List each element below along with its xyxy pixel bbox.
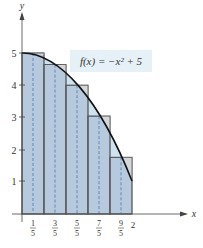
y-axis-label: y <box>19 0 25 11</box>
x-tick-2: 2 <box>131 220 136 230</box>
x-tick-1-5-den: 5 <box>31 229 35 238</box>
y-tick-4: 4 <box>12 80 17 91</box>
y-tick-2: 2 <box>12 145 17 156</box>
midpoint-rectangles <box>22 53 132 214</box>
y-tick-3: 3 <box>12 112 17 123</box>
y-tick-1: 1 <box>12 176 17 187</box>
y-tick-5: 5 <box>12 48 17 59</box>
x-tick-7-5-num: 7 <box>97 219 101 228</box>
x-tick-7-5-den: 5 <box>97 229 101 238</box>
x-tick-3-5-num: 3 <box>53 219 57 228</box>
x-tick-3-5-den: 5 <box>53 229 57 238</box>
x-axis-arrow-icon <box>180 212 188 217</box>
x-tick-1-5-num: 1 <box>31 219 35 228</box>
x-tick-9-5-den: 5 <box>119 229 123 238</box>
y-axis-arrow-icon <box>20 12 25 20</box>
function-label: f(x) = −x² + 5 <box>80 55 143 68</box>
x-tick-5-5-den: 5 <box>75 229 79 238</box>
riemann-sum-figure: 5 4 3 2 1 y x 1 5 3 5 5 5 7 5 9 5 2 f(x)… <box>0 0 203 248</box>
x-tick-9-5-num: 9 <box>119 219 123 228</box>
x-tick-5-5-num: 5 <box>75 219 79 228</box>
x-axis-label: x <box>191 208 197 219</box>
